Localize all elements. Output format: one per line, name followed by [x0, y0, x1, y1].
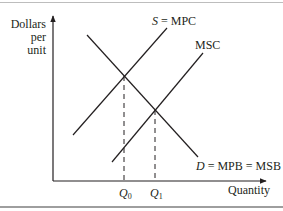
x-axis-label: Quantity: [228, 183, 270, 197]
msc-label: MSC: [195, 38, 220, 52]
y-axis-label-line3: unit: [27, 43, 46, 57]
supply-label: S = MPC: [152, 14, 196, 28]
externality-chart: Dollars per unit S = MPC MSC D = MPB = M…: [0, 0, 283, 211]
supply-mpc-curve: [73, 28, 167, 135]
msc-curve: [112, 53, 203, 162]
y-axis-label-line1: Dollars: [11, 17, 47, 31]
q1-label: Q1: [150, 186, 163, 201]
y-axis-label-line2: per: [31, 30, 46, 44]
demand-label: D = MPB = MSB: [195, 159, 281, 173]
demand-curve: [87, 35, 198, 157]
bottom-border: [0, 206, 283, 208]
q0-label: Q0: [119, 186, 132, 201]
